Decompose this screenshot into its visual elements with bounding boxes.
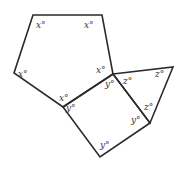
angle-label-x: x°: [18, 69, 28, 79]
angle-label-x: x°: [96, 65, 106, 75]
angle-label-y: y°: [130, 115, 141, 125]
angle-label-x: x°: [59, 93, 69, 103]
angle-label-x: x°: [36, 20, 46, 30]
angle-label-y: y°: [99, 140, 110, 150]
geometry-diagram: x° x° x° x° x° y° y° y° y° z° z° z°: [0, 0, 183, 169]
angle-label-y: y°: [65, 103, 76, 113]
angle-label-z: z°: [143, 102, 153, 112]
pentagon-angle-labels: x° x° x° x° x°: [18, 20, 106, 103]
angle-label-z: z°: [154, 69, 164, 79]
square-angle-labels: y° y° y° y°: [65, 79, 141, 150]
angle-label-y: y°: [104, 79, 115, 89]
angle-label-z: z°: [122, 76, 132, 86]
angle-label-x: x°: [84, 20, 94, 30]
